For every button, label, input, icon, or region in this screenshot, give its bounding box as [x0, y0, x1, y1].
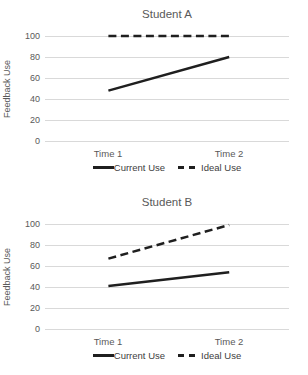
- y-tick: 60: [30, 73, 40, 83]
- legend-label: Current Use: [114, 162, 165, 173]
- y-axis-label: Feedback Use: [2, 224, 15, 329]
- gridline: [45, 329, 289, 330]
- y-tick: 60: [30, 261, 40, 271]
- legend-item-current-use: Current Use: [93, 350, 165, 361]
- y-axis-ticks: 100 80 60 40 20 0: [16, 224, 40, 329]
- y-tick: 20: [30, 303, 40, 313]
- y-tick: 0: [35, 136, 40, 146]
- dashed-line-icon: [178, 166, 197, 169]
- legend: Current Use Ideal Use: [45, 162, 289, 173]
- solid-line-icon: [93, 166, 114, 169]
- chart-student-b: Student B Feedback Use 100 80 60 40 20 0…: [0, 188, 308, 375]
- chart-student-a: Student A Feedback Use 100 80 60 40 20 0…: [0, 0, 308, 187]
- plot-area: [45, 224, 289, 329]
- y-tick: 80: [30, 240, 40, 250]
- legend-item-ideal-use: Ideal Use: [178, 350, 241, 361]
- legend-item-ideal-use: Ideal Use: [178, 162, 241, 173]
- chart-title: Student B: [45, 196, 289, 208]
- x-tick-time-1: Time 1: [94, 148, 123, 159]
- y-tick: 20: [30, 115, 40, 125]
- y-tick: 40: [30, 282, 40, 292]
- legend-label: Ideal Use: [201, 350, 241, 361]
- y-tick: 80: [30, 52, 40, 62]
- solid-line-icon: [93, 354, 114, 357]
- x-tick-time-2: Time 2: [215, 336, 244, 347]
- y-axis-label: Feedback Use: [2, 36, 15, 141]
- legend-label: Current Use: [114, 350, 165, 361]
- x-tick-time-1: Time 1: [94, 336, 123, 347]
- dashed-line-icon: [178, 354, 197, 357]
- plot-area: [45, 36, 289, 141]
- y-tick: 40: [30, 94, 40, 104]
- gridline: [45, 141, 289, 142]
- legend-label: Ideal Use: [201, 162, 241, 173]
- y-tick: 100: [25, 219, 40, 229]
- legend-item-current-use: Current Use: [93, 162, 165, 173]
- x-tick-time-2: Time 2: [215, 148, 244, 159]
- series-lines: [45, 36, 289, 141]
- legend: Current Use Ideal Use: [45, 350, 289, 361]
- y-tick: 0: [35, 324, 40, 334]
- y-tick: 100: [25, 31, 40, 41]
- series-lines: [45, 224, 289, 329]
- y-axis-ticks: 100 80 60 40 20 0: [16, 36, 40, 141]
- chart-title: Student A: [45, 8, 289, 20]
